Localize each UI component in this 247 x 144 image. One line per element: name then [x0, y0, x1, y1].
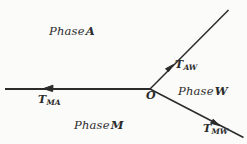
tension-label-t-aw: TAW [175, 59, 197, 71]
phase-m-word: Phase [74, 118, 110, 132]
tension-label-t-mw: TMW [203, 123, 228, 135]
tension-label-t-ma: TMA [38, 94, 61, 106]
arrowhead-aw [166, 65, 174, 72]
region-label-phase-w: PhaseW [178, 86, 228, 98]
phase-junction-diagram: PhaseA PhaseW PhaseM TAW TMA TMW O [0, 0, 247, 144]
phase-a-word: Phase [49, 24, 85, 38]
phase-w-symbol: W [214, 84, 228, 98]
t-mw-subscript: MW [211, 127, 228, 136]
t-aw-subscript: AW [183, 63, 197, 72]
branch-line-aw [150, 10, 229, 89]
origin-label: O [146, 90, 156, 101]
arrowhead-ma [44, 85, 54, 91]
phase-a-symbol: A [85, 24, 95, 38]
t-ma-subscript: MA [46, 98, 60, 107]
phase-m-symbol: M [110, 118, 124, 132]
region-label-phase-a: PhaseA [49, 26, 95, 38]
phase-w-word: Phase [178, 84, 214, 98]
region-label-phase-m: PhaseM [74, 120, 124, 132]
